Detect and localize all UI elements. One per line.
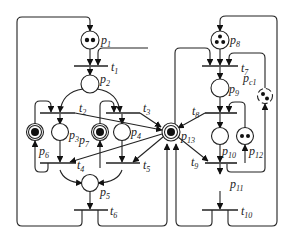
place-p4 (114, 124, 131, 141)
place-p10 (212, 128, 229, 145)
label-t6: t6 (110, 204, 117, 220)
arc-p12-t8 (229, 102, 245, 128)
label-p13: p13 (180, 129, 195, 145)
place-p12 (237, 128, 254, 145)
label-t2: t2 (79, 101, 86, 117)
label-p5: p5 (99, 185, 110, 201)
label-t3: t3 (143, 101, 150, 117)
label-p7: p7 (78, 133, 90, 149)
arc-t5-p5 (98, 170, 122, 183)
place-p9 (211, 79, 229, 97)
label-p3: p3 (68, 128, 79, 144)
label-p9: p9 (228, 82, 239, 98)
label-p12: p12 (248, 144, 263, 160)
label-p8: p8 (229, 33, 240, 49)
label-p6: p6 (38, 144, 49, 160)
label-t1: t1 (111, 60, 118, 76)
label-t5: t5 (143, 158, 150, 174)
place-pc1 (258, 89, 273, 104)
label-p1: p1 (100, 33, 111, 49)
label-p2: p2 (99, 72, 110, 88)
place-p5 (82, 175, 99, 192)
label-t8: t8 (192, 104, 199, 120)
arc-t3-p13 (140, 113, 161, 127)
label-p4: p4 (130, 125, 141, 141)
arc-t6-p1 (17, 17, 90, 226)
arc-t6-p13 (98, 144, 167, 226)
place-p3 (52, 124, 69, 141)
label-pc1: pc1 (242, 71, 257, 87)
label-p11: p11 (229, 177, 243, 193)
arc-t10-p8 (220, 16, 277, 226)
label-t4: t4 (77, 158, 84, 174)
place-p1 (81, 31, 99, 49)
place-p2 (81, 75, 99, 93)
label-t10: t10 (241, 204, 252, 220)
petri-net-diagram: p1 t1 p2 t2 t3 p3 p7 p4 p6 t4 t5 p5 t6 p… (0, 0, 292, 240)
arc-p13-t1 (98, 48, 148, 65)
place-p8 (211, 31, 229, 49)
right-arcs (175, 16, 277, 226)
label-t9: t9 (191, 155, 198, 171)
label-p10: p10 (221, 144, 236, 160)
